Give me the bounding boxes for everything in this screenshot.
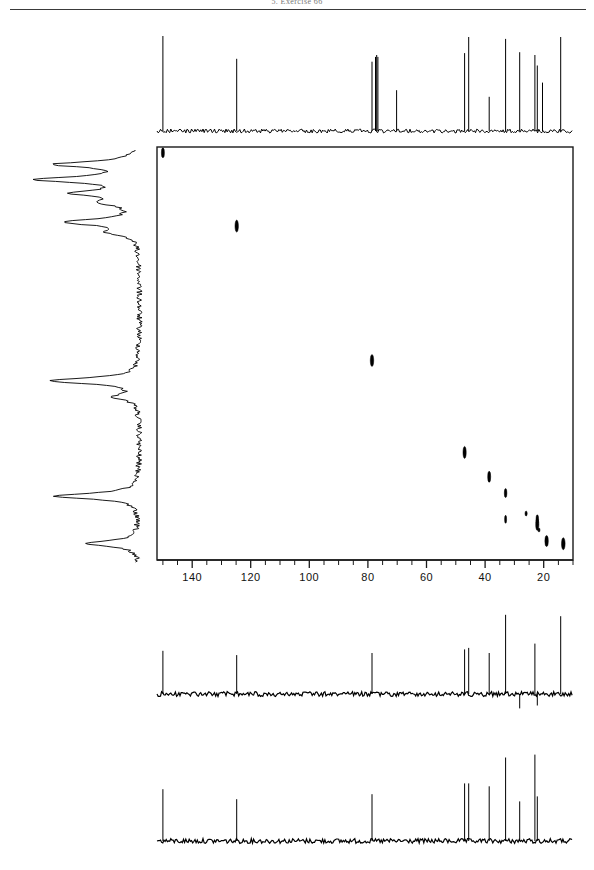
carbon13-trace-group [157, 36, 572, 133]
dept135-trace-group [157, 615, 572, 709]
chemical-shift-axis: 14012010080604020 [157, 560, 573, 583]
cross-peak [545, 536, 548, 547]
page-header-title: 5. Exercise 66 [0, 0, 594, 5]
cross-peak [562, 538, 566, 550]
dept90-trace-group [157, 755, 572, 844]
cross-peak [525, 511, 527, 516]
spectrum-canvas: 14012010080604020 [0, 0, 594, 870]
cross-peak [505, 515, 507, 523]
cross-peak [161, 148, 164, 158]
cross-peak [504, 489, 507, 498]
axis-tick-label: 40 [478, 571, 491, 583]
axis-tick-label: 60 [420, 571, 433, 583]
cross-peak [463, 446, 466, 458]
cross-peak-group [161, 148, 565, 550]
axis-tick-label: 140 [182, 571, 202, 583]
cross-peak [536, 515, 539, 524]
header-divider-rule [10, 9, 586, 10]
axis-tick-label: 80 [361, 571, 374, 583]
axis-tick-label: 100 [299, 571, 319, 583]
cross-peak [235, 220, 238, 232]
cross-peak [488, 471, 491, 482]
nmr-figure: 5. Exercise 66 14012010080604020 [0, 0, 594, 870]
cross-peak [370, 355, 373, 367]
contour-plot-box [157, 147, 573, 560]
cross-peak [538, 528, 540, 532]
axis-tick-label: 20 [537, 571, 550, 583]
axis-tick-label: 120 [241, 571, 261, 583]
proton-projection-group [33, 150, 142, 562]
